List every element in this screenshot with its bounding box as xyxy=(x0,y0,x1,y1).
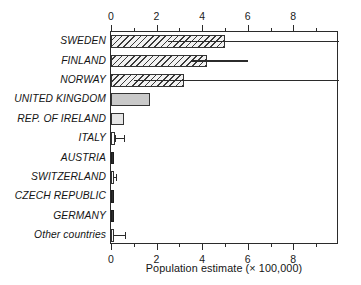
bar-row: SWEDEN xyxy=(111,32,337,51)
top-tick-label: 2 xyxy=(154,10,160,22)
bar-row: NORWAY xyxy=(111,71,337,90)
plot-area: 02468 02468 SWEDENFINLANDNORWAYUNITED KI… xyxy=(110,31,338,244)
error-bar-cap xyxy=(113,232,114,239)
top-tick-major xyxy=(157,25,158,32)
top-tick-label: 6 xyxy=(245,10,251,22)
category-label: ITALY xyxy=(79,133,111,143)
bar-row: GERMANY xyxy=(111,206,337,225)
top-tick-major xyxy=(111,25,112,32)
top-tick-major xyxy=(202,25,203,32)
x-axis-title: Population estimate (× 100,000) xyxy=(110,262,338,274)
category-label: Other countries xyxy=(34,230,111,240)
bar xyxy=(111,210,114,223)
error-bar-line xyxy=(115,138,123,139)
category-label: FINLAND xyxy=(61,56,111,66)
top-tick-label: 8 xyxy=(290,10,296,22)
bar xyxy=(111,190,114,203)
error-bar-cap xyxy=(116,174,117,181)
bar xyxy=(111,93,150,106)
category-label: UNITED KINGDOM xyxy=(14,94,111,104)
category-label: CZECH REPUBLIC xyxy=(15,191,111,201)
top-tick-label: 4 xyxy=(199,10,205,22)
bar-row: CZECH REPUBLIC xyxy=(111,187,337,206)
category-label: AUSTRIA xyxy=(61,153,111,163)
top-tick-major xyxy=(293,25,294,32)
bar-row: AUSTRIA xyxy=(111,148,337,167)
bar-row: FINLAND xyxy=(111,51,337,70)
error-bar-line xyxy=(134,80,339,81)
bar-row: SWITZERLAND xyxy=(111,168,337,187)
error-bar-cap xyxy=(115,135,116,142)
error-bar-line xyxy=(191,60,248,61)
bar-rows: SWEDENFINLANDNORWAYUNITED KINGDOMREP. OF… xyxy=(111,32,337,243)
error-bar-line xyxy=(113,235,125,236)
error-bar-line xyxy=(168,41,339,42)
top-tick-label: 0 xyxy=(108,10,114,22)
category-label: SWITZERLAND xyxy=(31,172,111,182)
bar xyxy=(111,113,124,126)
bar-chart: 02468 02468 SWEDENFINLANDNORWAYUNITED KI… xyxy=(0,0,361,285)
bar-row: REP. OF IRELAND xyxy=(111,109,337,128)
bar-row: ITALY xyxy=(111,129,337,148)
error-bar-cap xyxy=(113,174,114,181)
category-label: GERMANY xyxy=(53,211,111,221)
bar xyxy=(111,152,114,165)
bar-row: Other countries xyxy=(111,226,337,245)
category-label: NORWAY xyxy=(60,75,111,85)
bar-row: UNITED KINGDOM xyxy=(111,90,337,109)
error-bar-cap xyxy=(124,135,125,142)
error-bar-cap xyxy=(125,232,126,239)
top-tick-major xyxy=(248,25,249,32)
category-label: REP. OF IRELAND xyxy=(17,114,111,124)
category-label: SWEDEN xyxy=(60,36,111,46)
